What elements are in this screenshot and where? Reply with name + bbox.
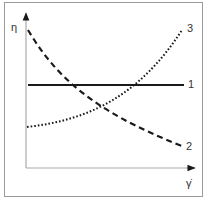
curve-3-increasing xyxy=(27,30,182,127)
curve-1-label: 1 xyxy=(188,79,194,90)
y-axis-label: η xyxy=(11,22,17,33)
x-axis-label: γ̇ xyxy=(186,178,192,189)
curve-2-label: 2 xyxy=(186,141,192,152)
curve-2-decreasing xyxy=(28,30,182,146)
diagram-canvas xyxy=(0,0,209,202)
curve-3-label: 3 xyxy=(187,23,193,34)
